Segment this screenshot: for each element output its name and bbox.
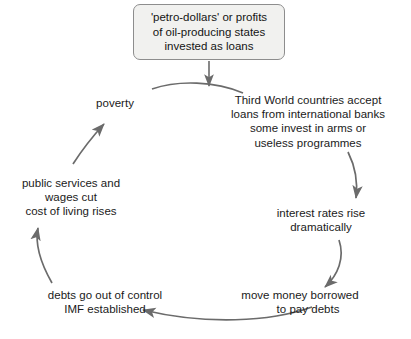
arrow-to-public-services: [37, 228, 52, 283]
node-interest-rates-rise: interest rates rise dramatically: [256, 206, 386, 234]
arrow-to-move-money: [325, 240, 341, 287]
node-public-services-cut: public services and wages cut cost of li…: [2, 176, 140, 219]
node-third-world-countries: Third World countries accept loans from …: [222, 93, 394, 150]
node-move-money-line2: to pay debts: [224, 302, 376, 316]
arrow-to-poverty: [73, 124, 104, 164]
arrow-to-interest-rates: [348, 152, 357, 198]
node-poverty: poverty: [78, 96, 152, 110]
node-debts-out-of-control: debts go out of control IMF established: [32, 288, 178, 316]
node-move-money-line1: move money borrowed: [241, 289, 358, 301]
arc-top: [152, 83, 243, 93]
debt-cycle-diagram: 'petro-dollars' or profits of oil-produc…: [0, 0, 411, 339]
node-move-money-borrowed: move money borrowedto pay debts: [224, 288, 376, 316]
source-box-petro-dollars: 'petro-dollars' or profits of oil-produc…: [133, 4, 285, 60]
